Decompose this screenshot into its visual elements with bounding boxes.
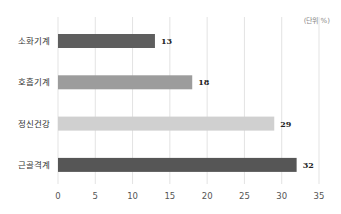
x-tick-label: 10 <box>127 191 138 201</box>
x-tick-label: 35 <box>314 191 325 201</box>
value-label: 13 <box>161 36 173 46</box>
bars <box>58 34 297 172</box>
value-label: 18 <box>198 77 210 87</box>
value-label: 32 <box>303 160 314 170</box>
category-label: 소화기계 <box>18 36 50 46</box>
x-tick-label: 30 <box>276 191 287 201</box>
category-labels: 소화기계호흡기계정신건강근골격계 <box>18 36 50 170</box>
bar <box>58 75 192 89</box>
x-tick-label: 15 <box>164 191 175 201</box>
x-tick-labels: 05101520253035 <box>55 191 324 201</box>
category-label: 정신건강 <box>18 119 50 129</box>
category-label: 근골격계 <box>18 160 50 170</box>
x-tick-label: 0 <box>55 191 60 201</box>
x-tick-label: 20 <box>202 191 213 201</box>
category-label: 호흡기계 <box>18 77 50 87</box>
x-tick-label: 5 <box>93 191 98 201</box>
bar <box>58 117 274 131</box>
x-tick-label: 25 <box>239 191 250 201</box>
bar <box>58 34 155 48</box>
unit-label: (단위 %) <box>304 16 331 25</box>
bar <box>58 158 297 172</box>
value-label: 29 <box>280 119 292 129</box>
value-labels: 13182932 <box>161 36 314 170</box>
bar-chart: 소화기계호흡기계정신건강근골격계 13182932 05101520253035… <box>0 0 341 214</box>
